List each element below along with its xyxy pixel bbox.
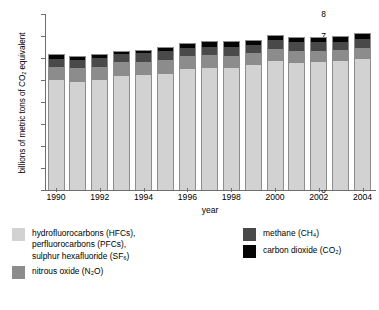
x-tick-label: 2000: [255, 192, 295, 202]
legend-label-line: carbon dioxide (CO₂): [263, 245, 341, 256]
segment-ch4: [92, 58, 107, 67]
segment-n2o: [180, 56, 195, 69]
segment-ch4: [355, 39, 370, 48]
segment-ch4: [114, 54, 129, 62]
ch4-swatch: [243, 228, 256, 241]
legend-label: methane (CH₄): [263, 228, 319, 239]
chart-legend: hydrofluorocarbons (HFCs),perfluorocarbo…: [0, 228, 379, 310]
segment-n2o: [158, 60, 173, 73]
x-axis-title: year: [45, 205, 375, 215]
legend-label-line: nitrous oxide (N₂O): [32, 266, 103, 277]
legend-label-line: sulphur hexafluoride (SF₆): [32, 251, 135, 262]
segment-n2o: [92, 67, 107, 80]
legend-column-right: methane (CH₄)carbon dioxide (CO₂): [243, 228, 379, 262]
y-tick-mark: [41, 190, 45, 191]
segment-n2o: [268, 49, 283, 61]
legend-label-line: perfluorocarbons (PFCs),: [32, 239, 135, 250]
segment-hfc-pfc-sf6: [246, 65, 261, 190]
segment-hfc-pfc-sf6: [158, 74, 173, 190]
x-axis-line: [45, 190, 376, 191]
segment-n2o: [246, 53, 261, 65]
legend-column-left: hydrofluorocarbons (HFCs),perfluorocarbo…: [12, 228, 212, 283]
bar-2000: [267, 35, 284, 190]
bar-1996: [179, 43, 196, 190]
segment-n2o: [224, 56, 239, 68]
segment-hfc-pfc-sf6: [202, 68, 217, 190]
segment-n2o: [289, 51, 304, 63]
segment-ch4: [224, 47, 239, 56]
co2-swatch: [243, 245, 256, 258]
x-tick-label: 2002: [299, 192, 339, 202]
legend-entry: methane (CH₄): [243, 228, 379, 241]
segment-hfc-pfc-sf6: [136, 75, 151, 190]
legend-label-line: methane (CH₄): [263, 228, 319, 239]
bar-2002: [310, 37, 327, 190]
hfc-pfc-sf6-swatch: [12, 228, 25, 241]
legend-label: carbon dioxide (CO₂): [263, 245, 341, 256]
bar-1991: [69, 56, 86, 190]
bar-2003: [332, 36, 349, 190]
x-tick-label: 1990: [36, 192, 76, 202]
segment-ch4: [49, 59, 64, 67]
segment-n2o: [311, 51, 326, 63]
segment-n2o: [333, 50, 348, 61]
segment-ch4: [289, 42, 304, 51]
bar-1992: [91, 54, 108, 190]
segment-ch4: [333, 42, 348, 51]
bar-2001: [288, 37, 305, 190]
segment-n2o: [70, 68, 85, 82]
x-tick-label: 1998: [211, 192, 251, 202]
segment-hfc-pfc-sf6: [92, 80, 107, 190]
legend-label-line: hydrofluorocarbons (HFCs),: [32, 228, 135, 239]
n2o-swatch: [12, 266, 25, 279]
bar-1990: [48, 54, 65, 190]
legend-entry: carbon dioxide (CO₂): [243, 245, 379, 258]
stacked-bar-chart-figure: billions of metric tons of CO₂ equivalen…: [0, 0, 379, 310]
legend-label: nitrous oxide (N₂O): [32, 266, 103, 277]
legend-entry: nitrous oxide (N₂O): [12, 266, 212, 279]
segment-ch4: [180, 48, 195, 57]
segment-ch4: [70, 60, 85, 68]
segment-ch4: [268, 40, 283, 49]
segment-ch4: [158, 51, 173, 60]
x-tick-label: 1996: [167, 192, 207, 202]
legend-entry: hydrofluorocarbons (HFCs),perfluorocarbo…: [12, 228, 212, 262]
segment-hfc-pfc-sf6: [70, 82, 85, 190]
segment-hfc-pfc-sf6: [355, 59, 370, 190]
plot-area: 012345678: [45, 14, 375, 190]
segment-hfc-pfc-sf6: [49, 80, 64, 190]
x-tick-label: 1994: [124, 192, 164, 202]
segment-ch4: [136, 53, 151, 62]
segment-hfc-pfc-sf6: [224, 68, 239, 190]
bar-2004: [354, 33, 371, 190]
segment-hfc-pfc-sf6: [114, 76, 129, 190]
bar-1997: [201, 41, 218, 190]
segment-n2o: [49, 67, 64, 81]
bar-1994: [135, 50, 152, 190]
bar-group: [45, 14, 375, 190]
segment-ch4: [202, 47, 217, 56]
bar-1995: [157, 47, 174, 190]
segment-ch4: [311, 42, 326, 51]
segment-hfc-pfc-sf6: [333, 61, 348, 190]
bar-1998: [223, 41, 240, 190]
x-axis-ticks: 19901992199419961998200020022004: [45, 192, 379, 206]
segment-n2o: [114, 62, 129, 75]
legend-label: hydrofluorocarbons (HFCs),perfluorocarbo…: [32, 228, 135, 262]
segment-n2o: [202, 55, 217, 68]
x-tick-label: 1992: [80, 192, 120, 202]
segment-ch4: [246, 45, 261, 54]
segment-n2o: [136, 62, 151, 75]
segment-hfc-pfc-sf6: [268, 61, 283, 190]
bar-1993: [113, 51, 130, 190]
bar-1999: [245, 40, 262, 190]
x-tick-label: 2004: [343, 192, 379, 202]
segment-n2o: [355, 48, 370, 59]
segment-hfc-pfc-sf6: [289, 63, 304, 190]
segment-hfc-pfc-sf6: [180, 69, 195, 190]
y-axis-title: billions of metric tons of CO₂ equivalen…: [18, 8, 28, 198]
segment-hfc-pfc-sf6: [311, 62, 326, 190]
